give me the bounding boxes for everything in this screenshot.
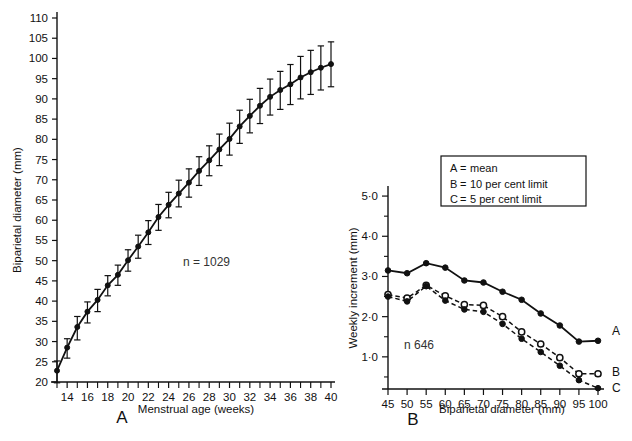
panel-a-y-tick-label: 80 [35,133,48,145]
panel-b-letter: B [407,410,418,429]
panel-a-data-point [288,82,293,87]
panel-b-series-a-point [595,338,601,344]
panel-a-y-tick-label: 100 [29,52,48,64]
panel-a-x-tick-labels: 1416182022242628303234363840 [61,391,338,403]
panel-b-series-b-point [519,329,525,335]
panel-a-data-point [146,230,151,235]
panel-a-x-tick-label: 14 [61,391,74,403]
figure-container: 2025303540455055606570758085909510010511… [0,0,632,441]
panel-a-data-point [115,272,120,277]
panel-a-y-tick-label: 55 [35,234,48,246]
panel-b-y-tick-label: 5·0 [361,190,378,202]
panel-b-series-c-point [462,307,468,313]
panel-b-x-tick-label: 55 [420,398,433,410]
panel-b-series-c-point [538,349,544,355]
panel-a-y-tick-label: 30 [35,336,48,348]
panel-b-series-c-point [519,336,525,342]
panel-b-x-tick-label: 100 [588,398,607,410]
panel-a-data-point [85,309,90,314]
panel-a: 2025303540455055606570758085909510010511… [0,0,340,441]
panel-b-series-a-point [385,268,391,274]
panel-a-y-tick-label: 35 [35,315,48,327]
panel-b-series-b-line [388,285,598,373]
panel-a-data-point [95,297,100,302]
panel-b-legend-item-a-key: A [450,162,458,174]
panel-a-data-point [298,75,303,80]
panel-b-series-b-point [595,371,601,377]
panel-a-data-point [227,136,232,141]
panel-a-data-point [105,283,110,288]
panel-a-data-point [136,244,141,249]
panel-a-data-markers [55,62,334,374]
panel-a-x-tick-label: 22 [142,391,155,403]
panel-b-series-a-point [538,311,544,317]
panel-a-x-tick-label: 34 [264,391,277,403]
panel-a-n-annotation: n = 1029 [183,255,230,269]
panel-a-data-point [126,258,131,263]
panel-b-legend-item-b-sep: = [460,178,466,190]
panel-b-series-c-point [557,363,563,369]
panel-a-letter: A [116,408,128,427]
panel-b-legend-item-c-sep: = [460,193,466,205]
panel-b-series-c-point [576,377,582,383]
panel-a-x-tick-label: 32 [243,391,256,403]
panel-b-series-c-point [423,283,429,289]
panel-a-data-point [308,70,313,75]
panel-a-x-tick-label: 36 [284,391,297,403]
panel-a-y-tick-labels: 2025303540455055606570758085909510010511… [29,12,48,388]
panel-a-data-point [207,158,212,163]
panel-b-series-c-point [385,294,391,300]
panel-a-data-point [166,202,171,207]
panel-a-data-point [278,87,283,92]
panel-b-y-tick-label: 2·0 [361,311,378,323]
panel-a-plot: 2025303540455055606570758085909510010511… [0,0,340,441]
panel-b-legend-item-c-key: C [450,193,458,205]
panel-a-data-point [329,62,334,67]
panel-a-x-tick-label: 24 [162,391,175,403]
panel-b-series-b-point [480,302,486,308]
panel-b-series-b-point [538,341,544,347]
panel-b-series-c-point [404,299,410,305]
panel-a-axes [51,12,335,388]
panel-a-data-point [176,191,181,196]
panel-a-data-point [237,124,242,129]
panel-b-x-tick-label: 45 [382,398,395,410]
panel-a-x-tick-label: 18 [101,391,114,403]
panel-b-series-c-point [500,321,506,327]
panel-a-y-tick-label: 70 [35,174,48,186]
panel-b-series-c-point [442,298,448,304]
panel-a-x-tick-label: 16 [81,391,94,403]
panel-b-axes [382,186,604,395]
panel-a-y-tick-label: 105 [29,32,48,44]
panel-b-end-label-a: A [612,324,620,338]
panel-b-series-c-point [595,385,601,391]
panel-a-y-tick-label: 90 [35,93,48,105]
panel-a-x-tick-label: 38 [304,391,317,403]
panel-a-y-tick-label: 95 [35,73,48,85]
panel-b-end-label-c: C [612,381,621,395]
panel-b-y-axis-title: Weekly increment (mm) [347,227,359,348]
panel-b-series-a-point [442,265,448,271]
panel-a-y-tick-label: 60 [35,214,48,226]
panel-a-y-tick-label: 85 [35,113,48,125]
panel-a-x-tick-label: 26 [183,391,196,403]
panel-a-x-tick-label: 28 [203,391,216,403]
panel-a-data-point [65,345,70,350]
panel-b-series-b-point [557,355,563,361]
panel-b-n-annotation: n 646 [404,338,434,352]
panel-a-y-axis-title: Biparietal diameter (mm) [11,147,23,273]
panel-a-data-point [247,113,252,118]
panel-a-x-tick-label: 20 [122,391,135,403]
panel-b-x-tick-label: 95 [573,398,586,410]
panel-a-data-point [75,324,80,329]
panel-b-series-a-point [423,260,429,266]
panel-b-legend-item-c-text: 5 per cent limit [470,193,542,205]
panel-b-series-a-point [404,270,410,276]
panel-a-y-tick-label: 25 [35,356,48,368]
panel-b-series-a-point [576,339,582,345]
panel-a-data-point [268,94,273,99]
panel-a-x-tick-label: 30 [223,391,236,403]
panel-a-y-tick-label: 45 [35,275,48,287]
panel-b-series-a-point [462,278,468,284]
panel-a-data-point [257,103,262,108]
